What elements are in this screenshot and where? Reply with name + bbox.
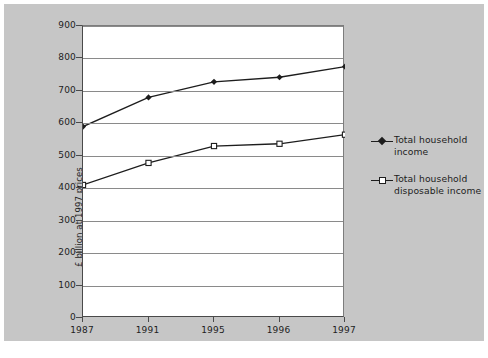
data-point-marker: [211, 79, 217, 85]
y-tick-label: 700: [58, 85, 76, 95]
chart-figure: £ billion at 1997 prices 010020030040050…: [4, 4, 484, 341]
legend-label-line1: Total household: [394, 173, 467, 184]
y-tick-label: 300: [58, 215, 76, 225]
data-point-marker: [83, 123, 86, 129]
y-tick-label: 900: [58, 20, 76, 30]
x-tick-label: 1991: [136, 325, 160, 335]
x-tick-label: 1995: [201, 325, 225, 335]
filled-diamond-line-icon: [370, 135, 394, 147]
plot-area: [82, 25, 344, 317]
y-tick-label: 800: [58, 52, 76, 62]
legend-label-line1: Total household: [394, 134, 467, 145]
y-tick-label: 100: [58, 280, 76, 290]
x-tick-mark: [148, 317, 149, 322]
series-lines: [83, 26, 345, 318]
data-point-marker: [211, 143, 216, 148]
gridline: [83, 58, 343, 59]
legend-label-line2: income: [394, 146, 428, 157]
data-point-marker: [277, 141, 282, 146]
gridline: [83, 253, 343, 254]
x-axis-ticks: 19871991199519961997: [82, 317, 344, 337]
x-tick-label: 1997: [332, 325, 356, 335]
open-square-line-icon: [370, 174, 394, 186]
x-tick-mark: [213, 317, 214, 322]
series-line-0: [83, 67, 345, 127]
x-tick-label: 1996: [267, 325, 291, 335]
legend-item-total-household-income: Total household income: [370, 134, 486, 157]
data-point-marker: [145, 94, 151, 100]
x-tick-label: 1987: [70, 325, 94, 335]
data-point-marker: [276, 74, 282, 80]
x-tick-mark: [344, 317, 345, 322]
gridline: [83, 156, 343, 157]
gridline: [83, 26, 343, 27]
gridline: [83, 286, 343, 287]
legend-label-total-household-disposable-income: Total household disposable income: [394, 173, 481, 196]
y-tick-label: 500: [58, 150, 76, 160]
y-tick-label: 200: [58, 247, 76, 257]
y-tick-label: 400: [58, 182, 76, 192]
gridline: [83, 188, 343, 189]
chart-legend: Total household income Total household d…: [370, 134, 486, 212]
x-tick-mark: [82, 317, 83, 322]
series-line-1: [83, 135, 345, 185]
legend-item-total-household-disposable-income: Total household disposable income: [370, 173, 486, 196]
data-point-marker: [83, 182, 86, 187]
gridline: [83, 91, 343, 92]
y-axis-tick-labels: 0100200300400500600700800900: [44, 25, 76, 317]
legend-label-total-household-income: Total household income: [394, 134, 467, 157]
data-point-marker: [342, 63, 345, 69]
data-point-marker: [342, 132, 345, 137]
y-tick-label: 600: [58, 117, 76, 127]
x-tick-mark: [279, 317, 280, 322]
gridline: [83, 221, 343, 222]
gridline: [83, 123, 343, 124]
data-point-marker: [146, 160, 151, 165]
legend-label-line2: disposable income: [394, 185, 481, 196]
